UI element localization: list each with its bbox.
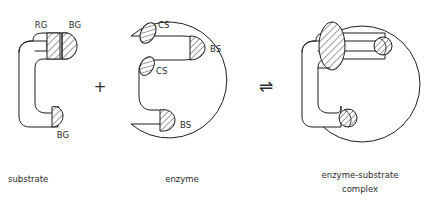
plus-operator: + (94, 78, 107, 96)
label-substrate-bg-top: BG (69, 20, 81, 30)
substrate-figure: RG BG BG (19, 20, 81, 140)
diagram-root: RG BG BG substrate + CS CS BS BS (0, 0, 437, 204)
caption-substrate: substrate (8, 174, 48, 184)
substrate-reactive-group-block (47, 33, 60, 59)
complex-catalytic-overlap (319, 22, 345, 70)
label-substrate-bg-bottom: BG (57, 130, 69, 140)
caption-enzyme: enzyme (165, 174, 199, 184)
complex-binding-overlap-top (374, 37, 392, 55)
substrate-binding-group-bottom (52, 107, 63, 127)
label-enzyme-bs-top: BS (210, 44, 221, 54)
substrate-binding-group-top (62, 33, 77, 59)
label-substrate-rg: RG (35, 20, 48, 30)
label-enzyme-cs-mid: CS (156, 66, 167, 76)
caption-complex-line1: enzyme-substrate (322, 170, 399, 180)
enzyme-figure: CS CS BS BS (131, 20, 227, 138)
label-enzyme-cs-top: CS (158, 20, 169, 30)
caption-complex-line2: complex (342, 184, 378, 194)
equilibrium-arrow: ⇌ (259, 76, 273, 96)
complex-binding-overlap-bottom (339, 109, 357, 127)
complex-figure (302, 22, 420, 142)
enzyme-substrate-diagram: RG BG BG substrate + CS CS BS BS (0, 0, 437, 204)
label-enzyme-bs-bottom: BS (180, 120, 191, 130)
